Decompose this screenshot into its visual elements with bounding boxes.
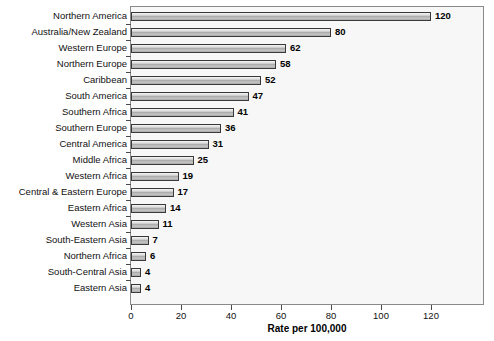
bar-value-label: 41	[238, 104, 249, 120]
bar-row: Western Africa19	[0, 168, 494, 184]
bar	[131, 156, 194, 165]
bar	[131, 188, 174, 197]
category-label: Eastern Asia	[0, 280, 127, 296]
bar-value-label: 47	[253, 88, 264, 104]
bar	[131, 220, 159, 229]
category-label: Southern Europe	[0, 120, 127, 136]
bar-row: Northern Europe58	[0, 56, 494, 72]
bar-value-label: 6	[150, 248, 155, 264]
bar	[131, 236, 149, 245]
bar-row: Western Europe62	[0, 40, 494, 56]
bar-value-label: 80	[335, 24, 346, 40]
category-label: Southern Africa	[0, 104, 127, 120]
bar-row: Northern Africa6	[0, 248, 494, 264]
x-axis-tick-label: 60	[261, 310, 301, 322]
bar-value-label: 62	[290, 40, 301, 56]
x-axis-tick-label: 80	[311, 310, 351, 322]
bar	[131, 124, 221, 133]
category-label: Northern America	[0, 8, 127, 24]
category-label: Northern Africa	[0, 248, 127, 264]
bar	[131, 204, 166, 213]
category-label: South-Central Asia	[0, 264, 127, 280]
bar	[131, 12, 431, 21]
x-axis-tick-label: 20	[161, 310, 201, 322]
category-label: Australia/New Zealand	[0, 24, 127, 40]
bar-row: Central America31	[0, 136, 494, 152]
bar-value-label: 25	[198, 152, 209, 168]
bar	[131, 140, 209, 149]
category-label: Western Africa	[0, 168, 127, 184]
category-label: Central America	[0, 136, 127, 152]
bar-value-label: 14	[170, 200, 181, 216]
bar-value-label: 7	[153, 232, 158, 248]
category-label: Western Europe	[0, 40, 127, 56]
bar-row: Caribbean52	[0, 72, 494, 88]
bar	[131, 108, 234, 117]
bar-value-label: 52	[265, 72, 276, 88]
bar-value-label: 17	[178, 184, 189, 200]
x-axis-tick-label: 100	[361, 310, 401, 322]
bar-row: Northern America120	[0, 8, 494, 24]
bar	[131, 28, 331, 37]
bar-value-label: 31	[213, 136, 224, 152]
category-label: Middle Africa	[0, 152, 127, 168]
category-label: Caribbean	[0, 72, 127, 88]
bar	[131, 268, 141, 277]
x-axis-tick-label: 40	[211, 310, 251, 322]
bar-row: Southern Africa41	[0, 104, 494, 120]
bar	[131, 172, 179, 181]
category-label: Western Asia	[0, 216, 127, 232]
bar-rows: Northern America120Australia/New Zealand…	[0, 0, 494, 341]
bar-row: Australia/New Zealand80	[0, 24, 494, 40]
bar	[131, 76, 261, 85]
bar-value-label: 11	[163, 216, 173, 232]
bar-row: Western Asia11	[0, 216, 494, 232]
bar-value-label: 4	[145, 264, 150, 280]
bar-value-label: 58	[280, 56, 291, 72]
bar	[131, 44, 286, 53]
bar-row: Eastern Asia4	[0, 280, 494, 296]
category-label: Central & Eastern Europe	[0, 184, 127, 200]
bar-value-label: 19	[183, 168, 194, 184]
bar	[131, 252, 146, 261]
bar-value-label: 4	[145, 280, 150, 296]
bar-chart: Northern America120Australia/New Zealand…	[0, 0, 494, 341]
bar	[131, 92, 249, 101]
bar-row: Eastern Africa14	[0, 200, 494, 216]
bar-row: Central & Eastern Europe17	[0, 184, 494, 200]
bar	[131, 284, 141, 293]
x-axis-tick-label: 120	[411, 310, 451, 322]
category-label: Northern Europe	[0, 56, 127, 72]
bar	[131, 60, 276, 69]
category-label: South-Eastern Asia	[0, 232, 127, 248]
bar-value-label: 120	[435, 8, 451, 24]
bar-row: South-Eastern Asia7	[0, 232, 494, 248]
x-axis-tick-label: 0	[111, 310, 151, 322]
bar-row: South America47	[0, 88, 494, 104]
category-label: South America	[0, 88, 127, 104]
bar-row: South-Central Asia4	[0, 264, 494, 280]
x-axis-title: Rate per 100,000	[130, 323, 484, 334]
bar-row: Middle Africa25	[0, 152, 494, 168]
bar-row: Southern Europe36	[0, 120, 494, 136]
bar-value-label: 36	[225, 120, 236, 136]
category-label: Eastern Africa	[0, 200, 127, 216]
